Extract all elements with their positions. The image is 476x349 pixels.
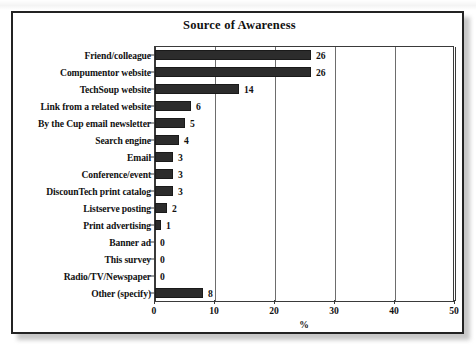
x-tick-label-30: 30 xyxy=(329,305,339,316)
bar xyxy=(155,67,311,77)
bar-value-label: 3 xyxy=(178,168,183,179)
category-tick xyxy=(149,276,154,277)
bar-value-label: 5 xyxy=(190,117,195,128)
category-label: By the Cup email newsletter xyxy=(38,117,151,128)
category-tick xyxy=(149,54,154,55)
category-label: Friend/colleague xyxy=(84,49,151,60)
category-label: Radio/TV/Newspaper xyxy=(64,271,151,282)
bar xyxy=(155,220,161,230)
bar-row: This survey0 xyxy=(13,251,466,268)
category-label: Banner ad xyxy=(109,237,151,248)
x-axis-title: % xyxy=(154,319,454,330)
bar-value-label: 0 xyxy=(160,271,165,282)
category-tick xyxy=(149,259,154,260)
bar xyxy=(155,152,173,162)
category-tick xyxy=(149,191,154,192)
x-axis-ticks: 01020304050 xyxy=(13,305,466,319)
category-label: Print advertising xyxy=(83,220,151,231)
bar-row: Conference/event3 xyxy=(13,165,466,182)
bar-row: Listserve posting2 xyxy=(13,200,466,217)
x-tick-label-40: 40 xyxy=(389,305,399,316)
bar-row: Radio/TV/Newspaper0 xyxy=(13,268,466,285)
x-tick-label-20: 20 xyxy=(269,305,279,316)
category-label: DiscounTech print catalog xyxy=(46,186,151,197)
bar-row: Compumentor website26 xyxy=(13,63,466,80)
category-tick xyxy=(149,122,154,123)
bar-row: Link from a related website6 xyxy=(13,97,466,114)
bar-value-label: 2 xyxy=(172,203,177,214)
bar-value-label: 8 xyxy=(208,288,213,299)
x-tick-mark-10 xyxy=(214,300,215,304)
category-label: Link from a related website xyxy=(41,100,151,111)
bar xyxy=(155,101,191,111)
category-label: Compumentor website xyxy=(60,66,151,77)
x-tick-mark-40 xyxy=(394,300,395,304)
bar xyxy=(155,203,167,213)
x-tick-mark-20 xyxy=(274,300,275,304)
bar-row: Banner ad0 xyxy=(13,234,466,251)
category-tick xyxy=(149,88,154,89)
bar-value-label: 26 xyxy=(316,49,326,60)
category-label: Conference/event xyxy=(81,168,151,179)
bar xyxy=(155,288,203,298)
bar-row: DiscounTech print catalog3 xyxy=(13,183,466,200)
bar xyxy=(155,50,311,60)
bar-row: TechSoup website14 xyxy=(13,80,466,97)
bar-value-label: 26 xyxy=(316,66,326,77)
category-tick xyxy=(149,156,154,157)
category-tick xyxy=(149,173,154,174)
category-label: This survey xyxy=(104,254,151,265)
bar xyxy=(155,118,185,128)
x-tick-mark-0 xyxy=(154,300,155,304)
category-tick xyxy=(149,225,154,226)
bar-value-label: 6 xyxy=(196,100,201,111)
bar-value-label: 0 xyxy=(160,237,165,248)
x-tick-mark-30 xyxy=(334,300,335,304)
x-tick-label-0: 0 xyxy=(152,305,157,316)
bar xyxy=(155,169,173,179)
bar xyxy=(155,84,239,94)
category-label: Listserve posting xyxy=(83,203,151,214)
bar xyxy=(155,135,179,145)
x-tick-label-10: 10 xyxy=(209,305,219,316)
category-tick xyxy=(149,208,154,209)
bar-row: By the Cup email newsletter5 xyxy=(13,114,466,131)
category-tick xyxy=(149,139,154,140)
bar-row: Other (specify)8 xyxy=(13,285,466,302)
x-tick-label-50: 50 xyxy=(449,305,459,316)
bar-value-label: 4 xyxy=(184,134,189,145)
category-label: Search engine xyxy=(95,134,151,145)
bar-value-label: 0 xyxy=(160,254,165,265)
bar-rows: Friend/colleague26Compumentor website26T… xyxy=(13,13,466,336)
x-tick-mark-50 xyxy=(454,300,455,304)
category-label: Other (specify) xyxy=(91,288,151,299)
chart-figure-frame: Source of Awareness Friend/colleague26Co… xyxy=(11,11,464,334)
scan-artifact xyxy=(0,0,476,10)
bar-row: Search engine4 xyxy=(13,131,466,148)
bar-value-label: 3 xyxy=(178,151,183,162)
bar-value-label: 3 xyxy=(178,186,183,197)
bar-value-label: 1 xyxy=(166,220,171,231)
bar xyxy=(155,186,173,196)
bar-row: Friend/colleague26 xyxy=(13,46,466,63)
bar-row: Email3 xyxy=(13,148,466,165)
bar-value-label: 14 xyxy=(244,83,254,94)
category-label: Email xyxy=(127,151,151,162)
category-tick xyxy=(149,242,154,243)
category-label: TechSoup website xyxy=(80,83,151,94)
category-tick xyxy=(149,105,154,106)
category-tick xyxy=(149,71,154,72)
category-tick xyxy=(149,293,154,294)
bar-row: Print advertising1 xyxy=(13,217,466,234)
